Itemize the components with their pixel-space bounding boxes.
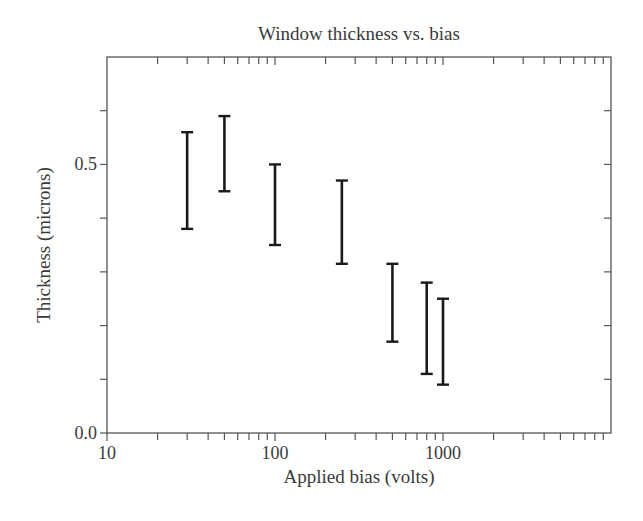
y-tick-label: 0.5 (75, 154, 98, 174)
x-tick-label: 1000 (425, 443, 461, 463)
error-bar (181, 132, 193, 229)
error-bar (336, 181, 348, 264)
chart: Window thickness vs. bias 1010010000.00.… (0, 0, 643, 521)
axis-tick-labels: 1010010000.00.5 (75, 154, 462, 463)
axis-ticks (100, 57, 611, 441)
y-axis-label: Thickness (microns) (33, 167, 55, 323)
x-tick-label: 100 (262, 443, 289, 463)
error-bar (421, 283, 433, 374)
error-bar (218, 116, 230, 191)
chart-title: Window thickness vs. bias (258, 23, 460, 44)
error-bar (269, 164, 281, 245)
plot-frame (107, 57, 611, 433)
x-axis-label: Applied bias (volts) (284, 466, 435, 488)
error-bar (386, 264, 398, 342)
error-bar (437, 299, 449, 385)
plot-border (107, 57, 611, 433)
y-tick-label: 0.0 (75, 423, 98, 443)
x-tick-label: 10 (98, 443, 116, 463)
error-bars (181, 116, 449, 385)
